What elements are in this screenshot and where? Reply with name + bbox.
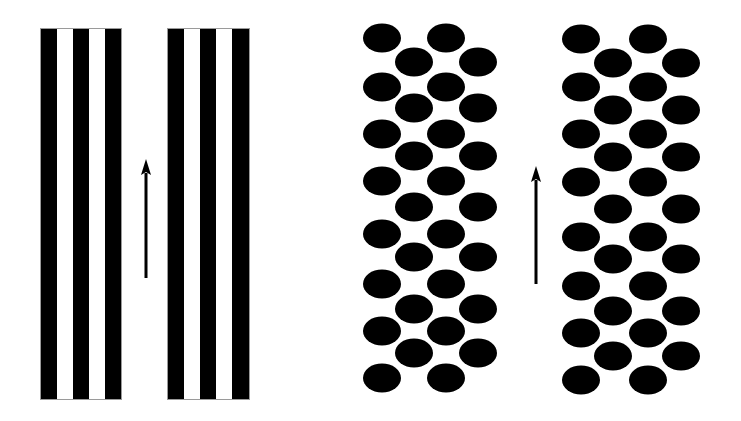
black-dot [427,24,465,53]
black-dot [594,245,632,274]
black-dot [562,168,600,197]
black-dot [594,195,632,224]
black-dot [562,272,600,301]
black-stripe [41,29,57,399]
black-dot [427,120,465,149]
black-dot [427,270,465,299]
black-dot [594,342,632,371]
black-dot [629,25,667,54]
black-dot [594,49,632,78]
black-dot [629,366,667,395]
black-dot [594,96,632,125]
black-dot [363,167,401,196]
black-dot [629,223,667,252]
black-dot [427,167,465,196]
black-dot [427,73,465,102]
black-dot [395,243,433,272]
black-dot [459,339,497,368]
black-dot [562,366,600,395]
stripe-panel-left [41,29,122,400]
black-dot [363,24,401,53]
black-dot [427,317,465,346]
black-stripe [168,29,184,399]
black-dot [662,49,700,78]
black-dot [459,243,497,272]
black-dot [629,73,667,102]
stripe-panel-right [168,29,250,400]
black-dot [459,48,497,77]
black-dot [395,94,433,123]
black-stripe [200,29,216,399]
black-dot [459,94,497,123]
arrow-shaft [535,180,538,284]
black-dot [662,297,700,326]
black-dot [629,168,667,197]
black-dot [662,96,700,125]
black-stripe [105,29,121,399]
black-stripe [73,29,89,399]
black-dot [459,295,497,324]
black-dot [662,245,700,274]
white-stripe [89,29,105,399]
black-dot [395,48,433,77]
black-dot [562,120,600,149]
black-dot [662,195,700,224]
black-dot [363,220,401,249]
white-stripe [184,29,200,399]
black-dot [594,143,632,172]
motion-illusion-figure [0,0,741,421]
black-dot [629,319,667,348]
black-dot [427,364,465,393]
black-dot [459,193,497,222]
black-dot [562,223,600,252]
figure-canvas [0,0,741,421]
black-dot [363,364,401,393]
black-dot [363,120,401,149]
black-dot [562,25,600,54]
black-dot [395,142,433,171]
black-dot [363,73,401,102]
black-dot [395,295,433,324]
black-stripe [232,29,249,399]
black-dot [427,220,465,249]
black-dot [363,270,401,299]
black-dot [629,272,667,301]
arrow-shaft [145,173,148,278]
black-dot [662,342,700,371]
black-dot [662,143,700,172]
black-dot [594,297,632,326]
black-dot [562,73,600,102]
black-dot [395,193,433,222]
white-stripe [216,29,232,399]
black-dot [629,120,667,149]
black-dot [395,339,433,368]
black-dot [363,317,401,346]
black-dot [562,319,600,348]
black-dot [459,142,497,171]
white-stripe [57,29,73,399]
